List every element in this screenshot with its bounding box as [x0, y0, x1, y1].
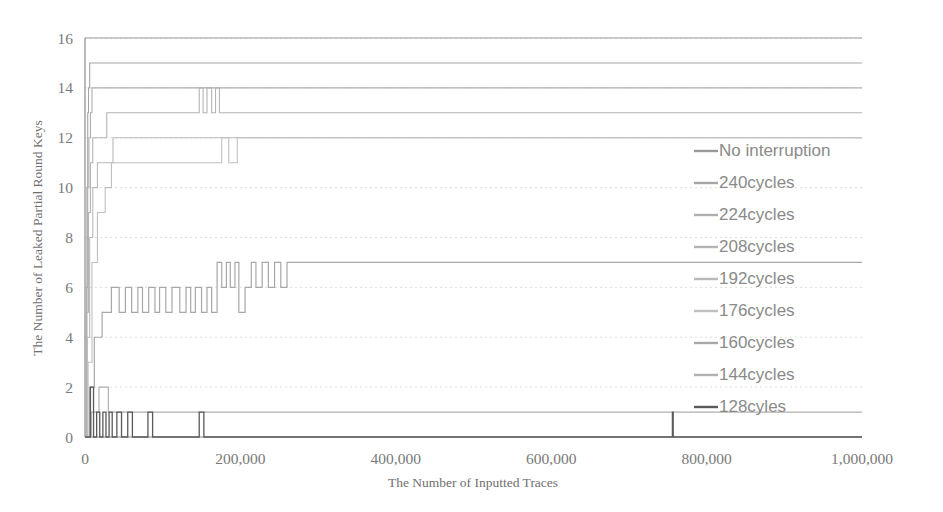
legend-label: 128cyles: [719, 397, 786, 416]
x-tick-label: 400,000: [371, 450, 422, 467]
y-tick-label: 12: [58, 129, 74, 146]
x-axis-title: The Number of Inputted Traces: [388, 475, 558, 490]
legend-label: 144cycles: [719, 365, 795, 384]
line-chart: 0246810121416 0200,000400,000600,000800,…: [0, 0, 943, 512]
legend-label: 160cycles: [719, 333, 795, 352]
legend-label: 176cycles: [719, 301, 795, 320]
legend-label: 240cycles: [719, 173, 795, 192]
x-tick-label: 0: [81, 450, 89, 467]
legend-label: No interruption: [719, 141, 831, 160]
legend-label: 192cycles: [719, 269, 795, 288]
x-tick-label: 200,000: [215, 450, 266, 467]
y-tick-label: 4: [65, 329, 73, 346]
y-tick-label: 2: [65, 379, 73, 396]
y-tick-label: 8: [65, 229, 73, 246]
y-tick-label: 10: [58, 179, 74, 196]
y-tick-label: 0: [65, 429, 73, 446]
y-axis-title: The Number of Leaked Partial Round Keys: [30, 120, 45, 355]
y-tick-label: 6: [65, 279, 73, 296]
chart-figure: 0246810121416 0200,000400,000600,000800,…: [0, 0, 943, 512]
x-tick-label: 1,000,000: [831, 450, 893, 467]
x-tick-label: 800,000: [681, 450, 732, 467]
y-tick-label: 14: [58, 79, 74, 96]
x-tick-labels: 0200,000400,000600,000800,0001,000,000: [81, 450, 893, 467]
legend-label: 224cycles: [719, 205, 795, 224]
x-tick-label: 600,000: [526, 450, 577, 467]
y-tick-label: 16: [58, 30, 74, 47]
legend: No interruption240cycles224cycles208cycl…: [694, 141, 831, 416]
y-tick-labels: 0246810121416: [58, 30, 74, 446]
legend-label: 208cycles: [719, 237, 795, 256]
